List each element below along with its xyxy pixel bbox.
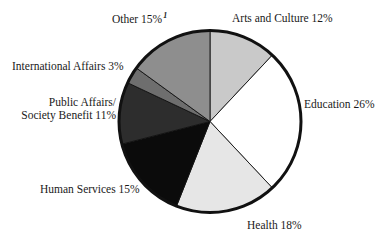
slice-label-education-text: Education 26%: [304, 98, 375, 110]
pie-chart-canvas: [0, 0, 391, 245]
slice-label-public-affairs-line-2: Society Benefit 11%: [12, 109, 116, 122]
slice-label-public-affairs-line-1: Public Affairs/: [12, 96, 116, 109]
slice-label-health: Health 18%: [247, 219, 302, 232]
slice-label-international-affairs: International Affairs 3%: [12, 60, 124, 73]
slice-label-arts-and-culture-text: Arts and Culture 12%: [232, 12, 333, 24]
slice-label-arts-and-culture: Arts and Culture 12%: [232, 12, 333, 25]
slice-label-other: Other 15%1: [112, 10, 167, 25]
footnote-marker: 1: [162, 11, 167, 20]
slice-label-international-affairs-text: International Affairs 3%: [12, 60, 124, 72]
slice-label-other-text: Other 15%: [112, 13, 162, 25]
pie-chart-figure: Other 15%1 Arts and Culture 12% Internat…: [0, 0, 391, 245]
slice-label-public-affairs: Public Affairs/Society Benefit 11%: [12, 96, 116, 121]
slice-label-health-text: Health 18%: [247, 219, 302, 231]
slice-label-human-services-text: Human Services 15%: [40, 183, 140, 195]
slice-label-education: Education 26%: [304, 98, 375, 111]
slice-label-human-services: Human Services 15%: [40, 183, 140, 196]
